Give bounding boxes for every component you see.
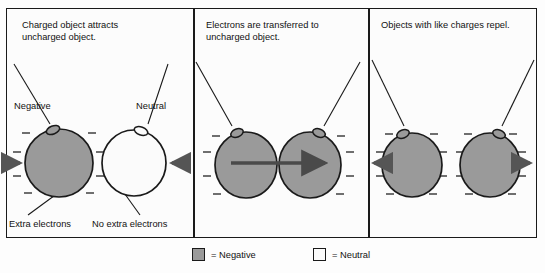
diagram-artwork [0,0,545,273]
legend-entry-neutral: = Neutral [313,248,370,261]
legend-label-negative: = Negative [211,250,256,260]
sphere-neutral [102,125,166,196]
sphere-repel-left [382,128,442,197]
sphere-negative [25,124,93,197]
legend-swatch-negative [192,248,205,261]
charge-transfer-diagram: Charged object attracts uncharged object… [0,0,545,273]
legend-label-neutral: = Neutral [332,250,370,260]
sphere-repel-right [460,128,520,197]
legend-entry-negative: = Negative [192,248,256,261]
leader-lines-panel-transfer [196,62,360,126]
legend-swatch-neutral [313,248,326,261]
leader-lines-panel-repel [372,60,534,126]
